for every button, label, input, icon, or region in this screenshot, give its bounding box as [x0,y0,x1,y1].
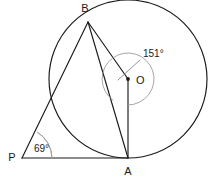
geometry-diagram-canvas: B O A P 151° 69° [0,0,211,182]
point-label-P: P [8,151,15,163]
point-label-A: A [124,165,132,177]
center-point-dot [126,77,130,81]
segment-BO [88,22,128,79]
angle-label-69: 69° [34,143,49,154]
angle-label-151: 151° [143,48,164,59]
point-label-B: B [81,2,88,14]
geometry-figure: B O A P 151° 69° [0,0,211,182]
segment-BA [88,22,128,158]
point-label-O: O [136,74,145,86]
segment-PB [22,22,88,158]
